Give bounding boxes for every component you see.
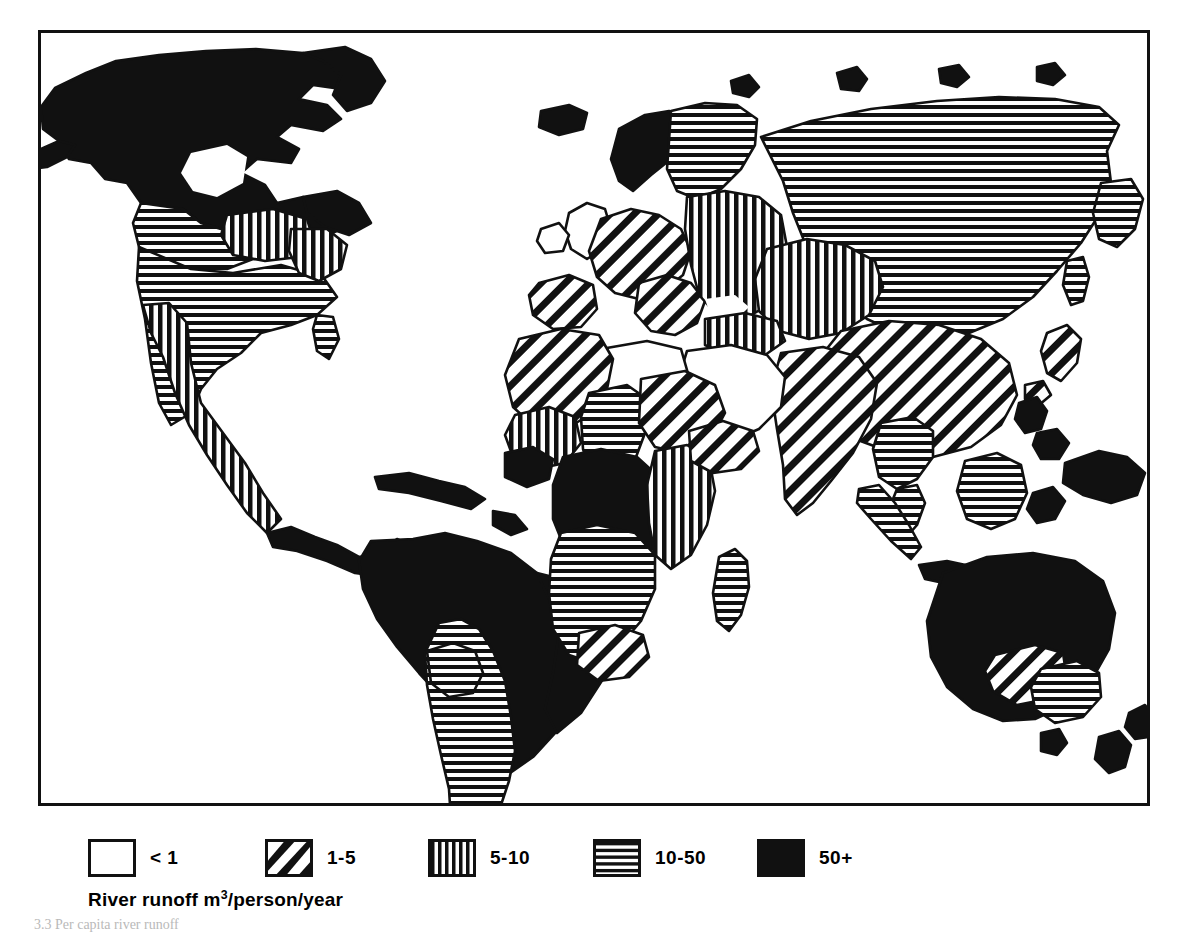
region-papua-new-guinea (1063, 451, 1145, 503)
swatch-lt-1 (88, 839, 136, 877)
region-horn-of-africa (689, 421, 759, 473)
legend-item-5-10: 5-10 (428, 836, 530, 880)
region-italy-balkans (635, 275, 705, 335)
legend-label-50-plus: 50+ (819, 847, 853, 869)
swatch-1-5 (265, 839, 313, 877)
region-australia-se-coast (1031, 661, 1101, 723)
region-sweden-finland (667, 103, 757, 199)
swatch-10-50-fill (596, 842, 638, 874)
region-svalbard (731, 75, 759, 97)
legend-item-10-50: 10-50 (593, 836, 706, 880)
map-frame (38, 30, 1150, 806)
legend-caption-main: River runoff m (88, 889, 221, 910)
region-japan (1041, 325, 1081, 381)
swatch-lt-1-fill (91, 842, 133, 874)
region-florida (313, 315, 339, 359)
legend-label-5-10: 5-10 (490, 847, 530, 869)
region-novaya-zemlya (837, 67, 867, 91)
legend-item-lt-1: < 1 (88, 836, 178, 880)
figure-page: < 1 1-5 (0, 0, 1184, 933)
region-indochina (873, 417, 933, 489)
region-new-siberian-islands (1037, 63, 1065, 85)
swatch-50-plus (757, 839, 805, 877)
world-map (41, 33, 1147, 803)
legend-label-lt-1: < 1 (150, 847, 178, 869)
region-iberia (529, 275, 597, 329)
region-usa-east (289, 229, 347, 281)
legend-caption-rest: /person/year (228, 889, 343, 910)
region-south-africa-cape (577, 625, 649, 681)
region-ireland (537, 223, 569, 253)
region-tasmania (1041, 729, 1067, 755)
legend-label-10-50: 10-50 (655, 847, 706, 869)
region-borneo (957, 453, 1027, 529)
legend-item-1-5: 1-5 (265, 836, 356, 880)
swatch-10-50 (593, 839, 641, 877)
region-sakhalin (1063, 257, 1089, 305)
swatch-5-10 (428, 839, 476, 877)
region-russia-far-east (1093, 179, 1143, 247)
region-severnaya-zemlya (939, 65, 969, 87)
region-philippines-south (1033, 429, 1069, 459)
map-legend: < 1 1-5 (88, 836, 1048, 882)
legend-label-1-5: 1-5 (327, 847, 356, 869)
legend-item-50-plus: 50+ (757, 836, 853, 880)
region-caribbean (375, 473, 485, 509)
swatch-5-10-fill (431, 842, 473, 874)
region-new-zealand-north (1125, 705, 1147, 739)
region-antilles (493, 511, 527, 535)
region-sulawesi (1027, 487, 1065, 523)
region-iceland (539, 105, 587, 135)
region-new-zealand-south (1095, 731, 1131, 773)
region-philippines (1015, 397, 1047, 433)
figure-caption: 3.3 Per capita river runoff (34, 917, 179, 933)
swatch-50-plus-fill (760, 842, 802, 874)
legend-caption: River runoff m3/person/year (88, 888, 343, 911)
region-madagascar (713, 549, 749, 631)
swatch-1-5-fill (268, 842, 310, 874)
legend-caption-exponent: 3 (221, 888, 228, 902)
